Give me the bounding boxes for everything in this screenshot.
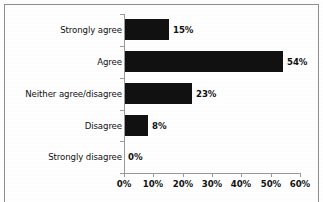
category-label-strongly-disagree: Strongly disagree bbox=[48, 152, 122, 162]
x-axis-tick bbox=[153, 173, 154, 177]
category-label-disagree: Disagree bbox=[85, 121, 122, 131]
value-label-agree: 54% bbox=[287, 57, 307, 67]
y-axis-tick bbox=[120, 46, 124, 47]
x-axis-tick bbox=[271, 173, 272, 177]
category-label-strongly-agree: Strongly agree bbox=[60, 25, 122, 35]
chart-screenshot: Strongly agree Agree Neither agree/disag… bbox=[0, 0, 323, 202]
bar-agree bbox=[125, 51, 283, 72]
x-axis-tick-label-20: 20% bbox=[168, 179, 198, 189]
y-axis-tick bbox=[120, 14, 124, 15]
y-axis-tick bbox=[120, 141, 124, 142]
category-label-neither-agree-disagree: Neither agree/disagree bbox=[25, 89, 122, 99]
x-axis-tick-label-10: 10% bbox=[138, 179, 168, 189]
x-axis-tick bbox=[212, 173, 213, 177]
y-axis-line bbox=[124, 14, 125, 173]
y-axis-tick bbox=[120, 110, 124, 111]
x-axis-tick bbox=[300, 173, 301, 177]
bar-strongly-agree bbox=[125, 19, 169, 40]
x-axis-tick bbox=[183, 173, 184, 177]
bar-chart-plot: Strongly agree Agree Neither agree/disag… bbox=[0, 0, 323, 202]
x-axis-tick-label-30: 30% bbox=[197, 179, 227, 189]
category-label-agree: Agree bbox=[97, 57, 122, 67]
x-axis-tick-label-60: 60% bbox=[285, 179, 315, 189]
x-axis-tick-label-40: 40% bbox=[226, 179, 256, 189]
bar-disagree bbox=[125, 115, 148, 136]
value-label-disagree: 8% bbox=[152, 121, 166, 131]
y-axis-tick bbox=[120, 78, 124, 79]
value-label-neither-agree-disagree: 23% bbox=[196, 89, 216, 99]
x-axis-tick bbox=[124, 173, 125, 177]
x-axis-tick-label-50: 50% bbox=[256, 179, 286, 189]
x-axis-tick bbox=[241, 173, 242, 177]
x-axis-tick-label-0: 0% bbox=[109, 179, 139, 189]
bar-neither-agree-disagree bbox=[125, 83, 192, 104]
value-label-strongly-agree: 15% bbox=[173, 25, 193, 35]
value-label-strongly-disagree: 0% bbox=[128, 152, 142, 162]
